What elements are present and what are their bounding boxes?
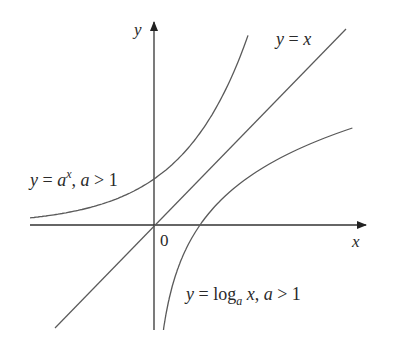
origin-label: 0	[160, 231, 169, 250]
diagram-canvas: y x 0 y = x y = ax, a > 1 y = loga x, a …	[0, 0, 394, 355]
x-axis-label: x	[351, 232, 360, 251]
exponential-curve	[30, 35, 248, 218]
y-axis-label: y	[132, 20, 142, 39]
exponential-label: y = ax, a > 1	[28, 167, 118, 190]
logarithm-label: y = loga x, a > 1	[184, 284, 301, 308]
identity-label: y = x	[274, 29, 311, 49]
